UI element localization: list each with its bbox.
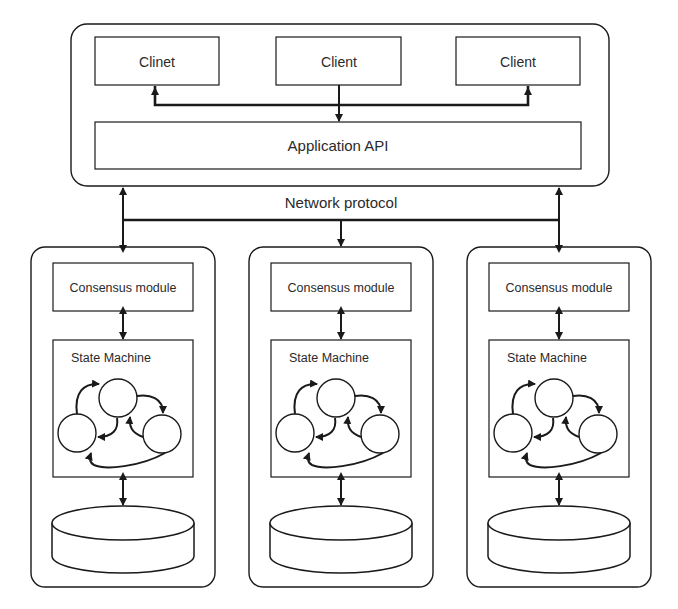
state-machine-label: State Machine — [289, 351, 369, 365]
state-machine-label: State Machine — [71, 351, 151, 365]
state-machine-graph — [494, 379, 617, 467]
network-protocol-label: Network protocol — [285, 194, 398, 211]
consensus-module-label: Consensus module — [505, 281, 612, 295]
state-circle-top — [535, 379, 573, 417]
state-circle-top — [317, 379, 355, 417]
storage-disk — [52, 506, 194, 573]
state-machine-graph — [276, 379, 399, 467]
state-machine-label: State Machine — [507, 351, 587, 365]
consensus-module-label: Consensus module — [69, 281, 176, 295]
state-machine-graph — [58, 379, 181, 467]
network-protocol: Network protocol — [123, 188, 559, 246]
state-circle-right — [143, 415, 181, 453]
storage-disk — [270, 506, 412, 573]
client-layer: Clinet Client Client Application API — [71, 24, 609, 186]
storage-disk — [488, 506, 630, 573]
state-circle-right — [361, 415, 399, 453]
state-circle-top — [99, 379, 137, 417]
application-api-label: Application API — [288, 137, 389, 154]
client-connectors — [155, 85, 528, 121]
server-node-3: Consensus module State Machine — [467, 247, 651, 587]
state-circle-left — [58, 414, 96, 452]
consensus-module-label: Consensus module — [287, 281, 394, 295]
server-node-2: Consensus module State Machine — [249, 247, 433, 587]
state-circle-left — [276, 414, 314, 452]
architecture-diagram: Clinet Client Client Application API Net… — [0, 0, 678, 609]
state-circle-left — [494, 414, 532, 452]
client-label-3: Client — [500, 54, 536, 70]
client-label-2: Client — [321, 54, 357, 70]
client-label-1: Clinet — [139, 54, 175, 70]
state-circle-right — [579, 415, 617, 453]
server-node-1: Consensus module State Machine — [31, 247, 215, 587]
